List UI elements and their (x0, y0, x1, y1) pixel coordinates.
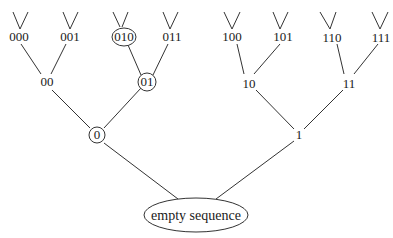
root-node: empty sequence (144, 198, 248, 232)
node-1: 1 (296, 127, 303, 142)
node-010: 010 (114, 29, 134, 44)
node-011: 011 (162, 29, 181, 44)
node-000: 000 (9, 29, 29, 44)
node-100: 100 (222, 29, 242, 44)
root-label: empty sequence (151, 208, 241, 223)
node-01: 01 (141, 74, 154, 89)
level3-nodes: 000 001 010 011 100 101 110 111 (9, 28, 390, 46)
node-001: 001 (60, 29, 80, 44)
node-101: 101 (273, 29, 293, 44)
node-111: 111 (372, 30, 391, 45)
binary-tree-diagram: 000 001 010 011 100 101 110 111 00 01 10… (0, 0, 393, 238)
node-0: 0 (94, 127, 101, 142)
node-110: 110 (322, 30, 341, 45)
node-00: 00 (41, 74, 54, 89)
node-11: 11 (343, 76, 356, 91)
node-10: 10 (243, 76, 256, 91)
level2-nodes: 00 01 10 11 (41, 73, 356, 91)
level1-nodes: 0 1 (89, 127, 302, 143)
